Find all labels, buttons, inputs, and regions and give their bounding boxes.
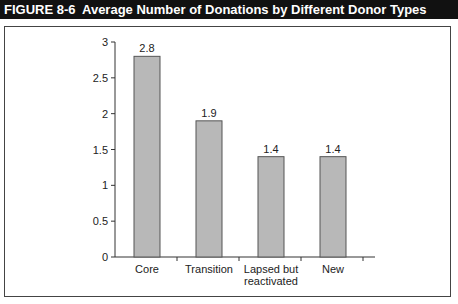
value-label: 1.4 (325, 143, 340, 155)
y-tick-label: 3 (102, 36, 108, 48)
y-tick-label: 1 (102, 179, 108, 191)
y-tick-label: 2 (102, 108, 108, 120)
bar-transition (196, 121, 222, 257)
y-tick-label: 2.5 (93, 72, 108, 84)
category-label: Core (135, 263, 159, 275)
bar-core (134, 56, 160, 257)
bar-new (320, 157, 346, 257)
bar-lapsed-but-reactivated (258, 157, 284, 257)
category-label: Transition (185, 263, 233, 275)
value-label: 1.9 (201, 107, 216, 119)
y-tick-label: 0.5 (93, 215, 108, 227)
category-label: New (322, 263, 344, 275)
value-label: 1.4 (263, 143, 278, 155)
category-label: Lapsed but (244, 263, 298, 275)
y-tick-label: 0 (102, 251, 108, 263)
y-tick-label: 1.5 (93, 144, 108, 156)
value-label: 2.8 (139, 42, 154, 54)
category-label: reactivated (244, 275, 298, 287)
bar-chart: 00.511.522.532.8Core1.9Transition1.4Laps… (0, 0, 458, 304)
